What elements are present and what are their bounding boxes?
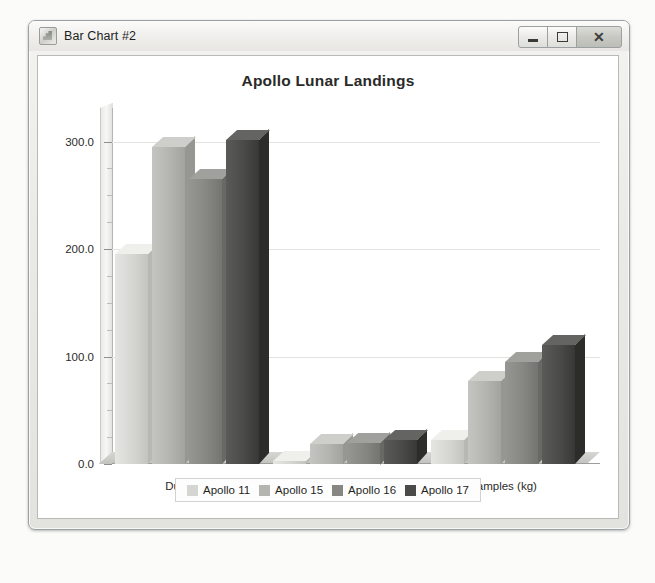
chart-legend: Apollo 11Apollo 15Apollo 16Apollo 17: [175, 478, 481, 502]
y-axis-tick-label: 300.0: [65, 136, 94, 148]
bar-face: [384, 440, 417, 464]
bar-face: [226, 140, 259, 464]
bar[interactable]: [505, 362, 538, 464]
y-axis-tick-label: 100.0: [65, 351, 94, 363]
maximize-icon: [557, 32, 568, 42]
legend-label: Apollo 17: [421, 484, 469, 496]
y-axis-tick-label: 0.0: [78, 458, 94, 470]
minimize-icon: [528, 39, 538, 42]
bar[interactable]: [431, 440, 464, 464]
bar-face: [189, 179, 222, 464]
y-axis-minor-tick: [107, 222, 112, 223]
close-button[interactable]: ✕: [576, 26, 622, 48]
legend-label: Apollo 15: [275, 484, 323, 496]
minimize-button[interactable]: [518, 26, 548, 48]
java-app-icon: [39, 27, 57, 45]
bar[interactable]: [384, 440, 417, 464]
bar[interactable]: [115, 254, 148, 464]
window-title: Bar Chart #2: [64, 29, 136, 43]
y-axis-minor-tick: [107, 437, 112, 438]
legend-swatch: [259, 485, 270, 496]
bar[interactable]: [310, 444, 343, 464]
legend-swatch: [187, 485, 198, 496]
y-axis-tick: [104, 249, 112, 250]
y-axis-tick: [104, 142, 112, 143]
legend-swatch: [332, 485, 343, 496]
bar-side: [575, 334, 585, 464]
y-axis-minor-tick: [107, 410, 112, 411]
bar-face: [115, 254, 148, 464]
close-icon: ✕: [593, 30, 605, 44]
y-axis-minor-tick: [107, 383, 112, 384]
y-axis-tick-label: 200.0: [65, 243, 94, 255]
window-title-bar[interactable]: Bar Chart #2 ✕: [29, 21, 629, 51]
y-axis-minor-tick: [107, 276, 112, 277]
window-controls: ✕: [518, 26, 622, 46]
chart-title: Apollo Lunar Landings: [38, 72, 618, 90]
bar-side: [259, 129, 269, 464]
legend-label: Apollo 16: [348, 484, 396, 496]
y-axis-tick: [104, 464, 112, 465]
bar-face: [152, 147, 185, 464]
bar-face: [505, 362, 538, 464]
application-window: Bar Chart #2 ✕ Apollo Lunar Landings 0.0…: [28, 20, 630, 530]
legend-item[interactable]: Apollo 16: [332, 484, 396, 496]
bar[interactable]: [273, 461, 306, 464]
legend-item[interactable]: Apollo 17: [405, 484, 469, 496]
y-axis-tick: [104, 357, 112, 358]
legend-item[interactable]: Apollo 15: [259, 484, 323, 496]
y-axis-minor-tick: [107, 168, 112, 169]
bar-face: [542, 345, 575, 464]
chart-panel[interactable]: Apollo Lunar Landings 0.0100.0200.0300.0…: [37, 55, 619, 519]
legend-label: Apollo 11: [203, 484, 250, 496]
legend-item[interactable]: Apollo 11: [187, 484, 250, 496]
y-axis-minor-tick: [107, 330, 112, 331]
legend-swatch: [405, 485, 416, 496]
bar[interactable]: [226, 140, 259, 464]
y-axis-minor-tick: [107, 303, 112, 304]
bar-face: [431, 440, 464, 464]
bar[interactable]: [347, 443, 380, 465]
y-axis-line: [112, 108, 113, 464]
bar-face: [310, 444, 343, 464]
bar[interactable]: [542, 345, 575, 464]
maximize-button[interactable]: [547, 26, 577, 48]
bar[interactable]: [189, 179, 222, 464]
bar-face: [273, 461, 306, 464]
bar[interactable]: [152, 147, 185, 464]
bar[interactable]: [468, 381, 501, 464]
plot-area: 0.0100.0200.0300.0 DurationEVA TimeSampl…: [100, 108, 600, 476]
bar-face: [347, 443, 380, 465]
y-axis-minor-tick: [107, 195, 112, 196]
bar-face: [468, 381, 501, 464]
